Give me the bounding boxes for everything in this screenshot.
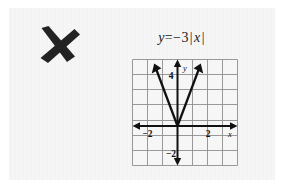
y-tick-label-4: 4 [169, 71, 174, 81]
y-tick-label-neg2: −2 [166, 149, 176, 159]
graph-background [133, 60, 238, 166]
coordinate-graph: −2 2 4 −2 x y [132, 59, 238, 166]
equation-text: y=−3|x| [127, 30, 237, 46]
abs-bar-close: | [201, 30, 206, 45]
worksheet-page: y=−3|x| [0, 0, 284, 188]
equation-lhs: y [158, 30, 165, 45]
problem-card: y=−3|x| [9, 8, 275, 180]
x-axis-name: x [227, 129, 232, 139]
x-mark-icon [36, 25, 80, 65]
y-axis-name: y [182, 63, 187, 73]
equation-variable: x [194, 30, 201, 45]
equation-coefficient: −3 [173, 30, 189, 45]
equation-equals: = [165, 30, 173, 45]
x-tick-label-neg2: −2 [142, 129, 152, 139]
x-tick-label-2: 2 [206, 129, 211, 139]
